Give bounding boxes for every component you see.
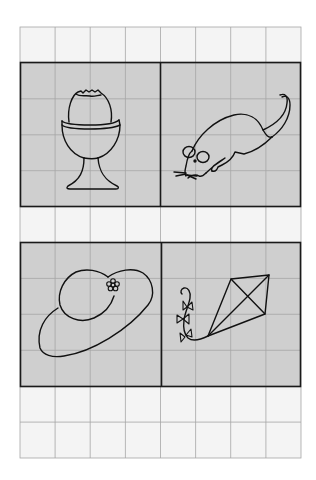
worksheet-grid <box>0 0 316 480</box>
